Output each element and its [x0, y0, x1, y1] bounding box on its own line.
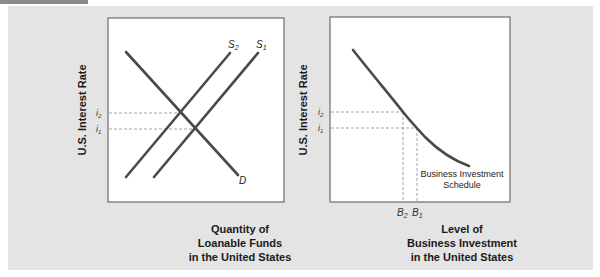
x-axis-label-line2: Business Investment: [407, 237, 517, 249]
tick-i2: i2: [318, 107, 324, 118]
tick-i1: i1: [96, 124, 101, 135]
y-axis-label: U.S. Interest Rate: [297, 64, 309, 155]
tick-i1: i1: [318, 123, 323, 134]
business-investment-chart: U.S. Interest Rate i2 i1 B2 B1 Business …: [297, 17, 517, 263]
curve-label-line1: Business Investment: [420, 169, 504, 179]
loanable-funds-chart: U.S. Interest Rate i2 i1 S2 S1 D Quantit…: [76, 18, 291, 263]
y-axis-label: U.S. Interest Rate: [76, 64, 88, 155]
tick-b2: B2: [397, 207, 408, 219]
label-d: D: [239, 175, 246, 186]
x-axis-label-line1: Quantity of: [211, 223, 269, 235]
tick-b1: B1: [412, 207, 423, 219]
x-axis-label-line2: Loanable Funds: [198, 237, 282, 249]
curve-label-line2: Schedule: [443, 180, 481, 190]
tick-i2: i2: [96, 108, 102, 119]
x-axis-label-line3: in the United States: [411, 251, 514, 263]
x-axis-label-line3: in the United States: [189, 251, 292, 263]
figure: U.S. Interest Rate i2 i1 S2 S1 D Quantit…: [0, 0, 600, 277]
x-axis-label-line1: Level of: [441, 223, 483, 235]
